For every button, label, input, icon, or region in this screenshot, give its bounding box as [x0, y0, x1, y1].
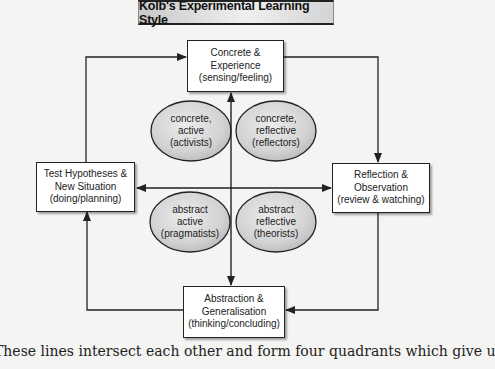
body-text-caption: These lines intersect each other and for… — [0, 343, 495, 359]
box-reflection-observation: Reflection & Observation (review & watch… — [332, 163, 430, 213]
box-concrete-experience: Concrete & Experience (sensing/feeling) — [187, 40, 284, 92]
box-line: Reflection & — [354, 169, 408, 182]
quadrant-ellipse-top-right — [236, 101, 316, 161]
diagram-title: Kolb's Experimental Learning Style — [138, 0, 334, 25]
box-line: Observation — [354, 182, 408, 195]
box-test-hypotheses: Test Hypotheses & New Situation (doing/p… — [36, 162, 135, 212]
box-line: Concrete & — [210, 47, 260, 60]
box-line: Abstraction & — [204, 293, 263, 306]
box-line: (review & watching) — [337, 194, 424, 207]
quadrant-ellipse-bottom-left — [150, 192, 230, 252]
box-line: New Situation — [55, 181, 117, 194]
quadrant-ellipse-bottom-right — [236, 192, 316, 252]
box-abstraction-generalisation: Abstraction & Generalisation (thinking/c… — [183, 286, 285, 338]
quadrant-ellipse-top-left — [151, 101, 231, 161]
box-line: (doing/planning) — [50, 193, 122, 206]
box-line: (sensing/feeling) — [199, 72, 272, 85]
box-line: Test Hypotheses & — [44, 168, 127, 181]
box-line: Generalisation — [202, 306, 266, 319]
box-line: (thinking/concluding) — [188, 318, 280, 331]
box-line: Experience — [210, 60, 260, 73]
